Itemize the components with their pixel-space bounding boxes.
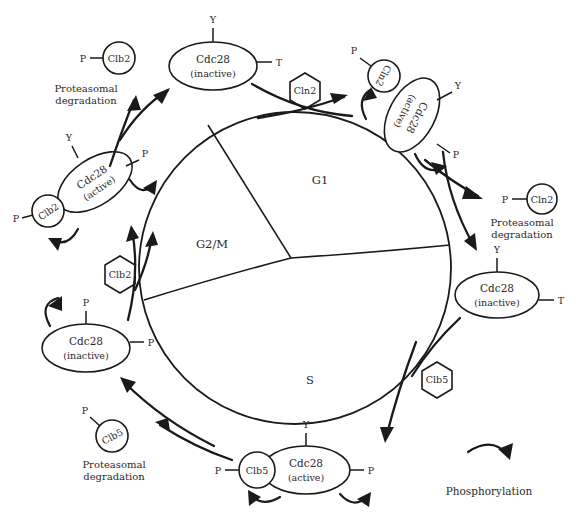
node-cln2-degraded: Cln2 P [502, 184, 557, 214]
phosphorylation-hook-g1-cln2 [362, 87, 377, 119]
degradation-label-topleft-line1: Proteasomal [54, 83, 117, 94]
flow-arrow-to-clb5-degradation [155, 418, 232, 460]
residue-label-t: T [558, 295, 565, 306]
cdc28-name: Cdc28 [69, 335, 103, 347]
phosphorylation-hook-g2m-clb2 [48, 229, 78, 251]
phase-label-s: S [306, 373, 314, 387]
divider-g1-s [291, 245, 450, 258]
flow-arrow-clb5-binding [380, 342, 416, 443]
node-g2m-clb2-circle: Clb2 P [13, 195, 64, 227]
node-g1-inactive-cdc28: Y T Cdc28 (inactive) [169, 14, 283, 90]
phosphorylation-hook-g2m-inactive [46, 296, 63, 326]
hexagon-clb2-label: Clb2 [109, 269, 131, 280]
phosphorylation-hook-g2m-cdc28 [130, 180, 157, 195]
residue-label-p: P [83, 297, 90, 308]
cdc28-name: Cdc28 [196, 53, 230, 65]
residue-label-t: T [276, 57, 283, 68]
degradation-label-right-line1: Proteasomal [490, 217, 553, 228]
cdc28-ellipse [169, 42, 257, 90]
g2m-active-residue-label-p: P [142, 148, 149, 159]
hexagon-cln2-label: Cln2 [294, 85, 316, 96]
residue-label-y: Y [209, 14, 217, 25]
cdc28-ellipse [42, 324, 130, 372]
residue-label-y: Y [302, 419, 310, 430]
legend-phosphorylation: Phosphorylation [446, 443, 533, 497]
g1-active-residue-label-p: P [453, 149, 460, 160]
hexagon-clb5-label: Clb5 [426, 374, 448, 385]
residue-label-p: P [368, 465, 375, 476]
phosphorylation-icon [468, 443, 513, 460]
cdc28-state: (inactive) [63, 350, 108, 361]
cln2-label: Cln2 [531, 194, 553, 205]
node-s-active-complex: Y Cdc28 (active) P [262, 419, 375, 494]
phosphate-label: P [80, 53, 87, 64]
cdc28-ellipse [455, 272, 539, 318]
divider-g2m-s [144, 258, 291, 300]
degradation-label-topleft-line2: degradation [55, 95, 117, 106]
cyclin-input-clb5: Clb5 [422, 362, 452, 398]
node-clb2-degraded: Clb2 P [80, 42, 135, 74]
node-s-inactive-cdc28: Y T Cdc28 (inactive) [455, 244, 565, 318]
phase-label-g1: G1 [312, 173, 329, 187]
clb5-label: Clb5 [246, 465, 268, 476]
flow-arrow-to-cln2-degradation [425, 160, 483, 199]
cell-cycle-diagram: G1 S G2/M Cln2 Clb5 Clb2 Y T Cdc28 (inac… [0, 0, 580, 529]
cdc28-name: Cdc28 [289, 457, 323, 469]
cdc28-state: (inactive) [190, 68, 235, 79]
cyclin-input-clb2: Clb2 [105, 256, 135, 293]
node-clb5-degraded: Clb5 P [82, 405, 128, 452]
degradation-label-right-line2: degradation [491, 229, 553, 240]
phosphorylation-hook-s-cdc28 [340, 492, 371, 507]
residue-label-y: Y [493, 244, 501, 255]
diagram-canvas: G1 S G2/M Cln2 Clb5 Clb2 Y T Cdc28 (inac… [0, 0, 580, 529]
residue-label-p-right: P [148, 337, 155, 348]
phosphate-label: P [351, 45, 358, 56]
phosphate-stub [22, 215, 33, 218]
cdc28-state: (active) [288, 472, 324, 483]
g2m-active-residue-stub-y [72, 146, 78, 158]
phosphate-label: P [215, 465, 222, 476]
phosphate-label: P [13, 213, 20, 224]
phosphate-stub [360, 58, 371, 66]
legend-label: Phosphorylation [446, 485, 533, 497]
g1-active-residue-label-y: Y [454, 80, 462, 91]
flow-arrow-into-g2m-inactive [120, 377, 214, 446]
phosphate-label: P [82, 405, 89, 416]
node-g1-cln2-circle: Cln2 P [351, 45, 400, 92]
phosphorylation-hook-s-clb5 [248, 490, 280, 506]
phase-label-g2m: G2/M [196, 237, 228, 251]
degradation-label-bottom-line1: Proteasomal [82, 459, 145, 470]
degradation-label-bottom-line2: degradation [83, 471, 145, 482]
cdc28-name: Cdc28 [480, 282, 514, 294]
phosphate-stub [90, 417, 100, 426]
cdc28-state: (inactive) [474, 297, 519, 308]
clb2-label: Clb2 [108, 53, 130, 64]
g2m-active-residue-label-y: Y [65, 132, 73, 143]
phosphate-label: P [502, 194, 509, 205]
